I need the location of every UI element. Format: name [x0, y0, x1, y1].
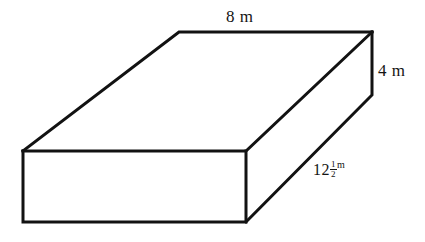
fraction-numerator: 1	[330, 160, 337, 169]
depth-unit: m	[337, 160, 345, 170]
prism-figure: 8 m 4 m 1212m	[0, 0, 425, 242]
mixed-number: 1212m	[313, 160, 345, 179]
width-dimension-label: 8 m	[226, 8, 253, 25]
front-face	[23, 151, 246, 222]
fraction: 12	[330, 160, 337, 179]
height-dimension-label: 4 m	[378, 62, 405, 79]
prism-svg	[0, 0, 425, 242]
depth-dimension-label: 1212m	[313, 160, 345, 179]
fraction-denominator: 2	[330, 169, 337, 179]
whole-number-part: 12	[313, 162, 330, 178]
